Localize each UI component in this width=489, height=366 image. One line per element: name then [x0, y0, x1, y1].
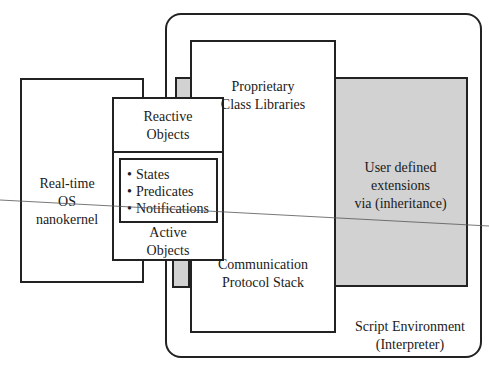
reactive-line1: Reactive [114, 108, 222, 126]
reactive-line2: Objects [114, 126, 222, 144]
proprietary-line1: Proprietary [192, 78, 334, 96]
script-environment-line2: (Interpreter) [338, 336, 482, 354]
nanokernel-line1: Real-time [22, 175, 112, 193]
reactive-objects-label: Reactive Objects [114, 108, 222, 144]
objects-divider [112, 151, 224, 153]
script-environment-label: Script Environment (Interpreter) [338, 318, 482, 354]
feature-states: States [127, 166, 209, 183]
features-list: States Predicates Notifications [127, 166, 209, 217]
communication-line2: Protocol Stack [192, 274, 334, 292]
user-defined-line2: extensions [335, 177, 466, 195]
active-line2: Objects [114, 242, 222, 260]
user-defined-line1: User defined [335, 159, 466, 177]
nanokernel-label: Real-time OS nanokernel [22, 175, 112, 229]
communication-label: Communication Protocol Stack [192, 256, 334, 292]
feature-predicates: Predicates [127, 183, 209, 200]
active-objects-label: Active Objects [114, 224, 222, 260]
script-environment-line1: Script Environment [338, 318, 482, 336]
active-line1: Active [114, 224, 222, 242]
nanokernel-line3: nanokernel [22, 211, 112, 229]
nanokernel-line2: OS [22, 193, 112, 211]
bottom-connector-tab [172, 258, 190, 288]
feature-notifications: Notifications [127, 200, 209, 217]
user-defined-label: User defined extensions via (inheritance… [335, 159, 466, 213]
user-defined-line3: via (inheritance) [335, 195, 466, 213]
